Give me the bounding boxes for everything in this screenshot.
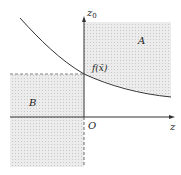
origin-label: O xyxy=(88,120,96,131)
region-a-label: A xyxy=(137,35,145,46)
x-axis-label: z xyxy=(169,121,176,132)
region-a-shade xyxy=(84,22,171,97)
region-b-shade xyxy=(10,74,84,167)
x-axis-arrow-icon xyxy=(169,115,175,119)
region-b-label: B xyxy=(28,97,36,108)
curve-label: f(x̄) xyxy=(91,63,108,73)
y-axis-arrow-icon xyxy=(82,16,86,22)
y-axis-label: z0 xyxy=(86,7,97,20)
diagram-canvas: z0 z O A B f(x̄) xyxy=(0,0,181,175)
